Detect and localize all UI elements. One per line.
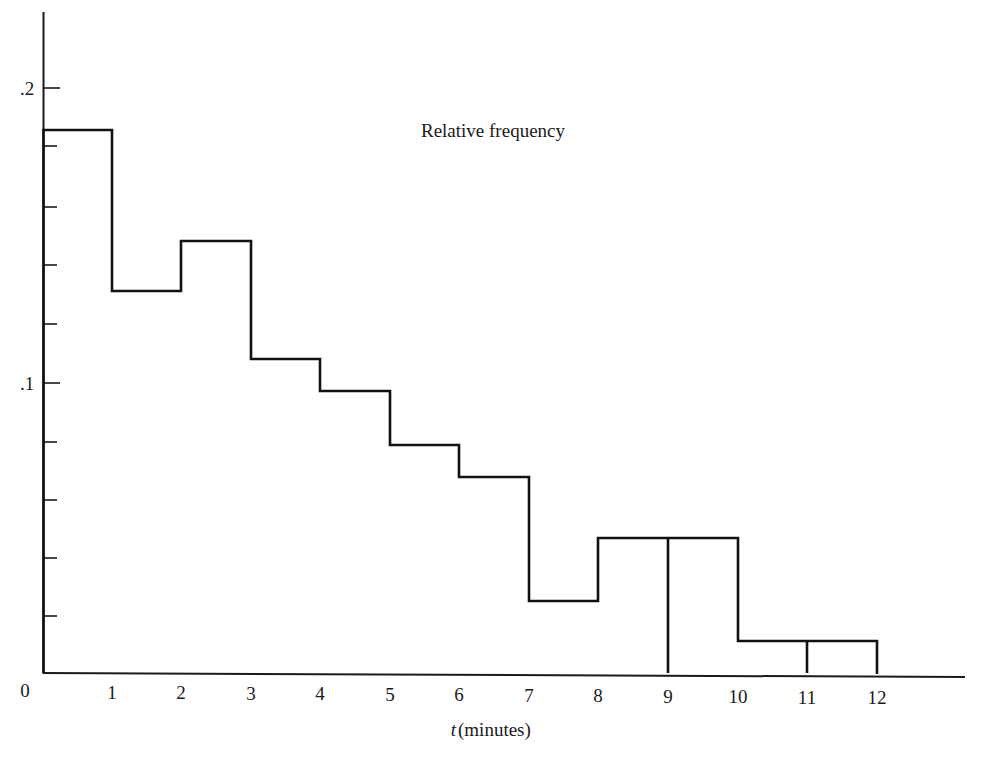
x-axis-tick-labels: 0 1 2 3 4 5 6 7 8 9 10 11 12 bbox=[20, 680, 886, 708]
x-axis-title-variable: t bbox=[451, 719, 457, 740]
x-tick-label-12: 12 bbox=[868, 687, 887, 708]
x-tick-label-6: 6 bbox=[454, 684, 464, 705]
svg-text:t: t bbox=[451, 719, 457, 740]
histogram-bars bbox=[44, 130, 878, 674]
x-axis-title-units: (minutes) bbox=[458, 719, 531, 741]
x-tick-label-8: 8 bbox=[593, 685, 603, 706]
x-tick-label-3: 3 bbox=[246, 683, 256, 704]
x-tick-label-9: 9 bbox=[663, 686, 673, 707]
histogram-figure: .2 .1 0 1 2 3 4 5 6 7 8 9 10 11 12 Relat… bbox=[0, 0, 987, 760]
y-tick-label-0.2: .2 bbox=[20, 78, 34, 99]
x-tick-label-11: 11 bbox=[798, 687, 816, 708]
x-tick-label-7: 7 bbox=[524, 685, 534, 706]
relative-frequency-histogram: .2 .1 0 1 2 3 4 5 6 7 8 9 10 11 12 Relat… bbox=[0, 0, 987, 760]
x-tick-label-4: 4 bbox=[315, 683, 325, 704]
bar-outline-profile bbox=[44, 130, 878, 674]
x-tick-label-10: 10 bbox=[729, 686, 748, 707]
x-tick-label-5: 5 bbox=[385, 684, 395, 705]
chart-title: Relative frequency bbox=[421, 120, 566, 141]
x-tick-label-1: 1 bbox=[107, 682, 117, 703]
y-axis-ticks bbox=[44, 88, 61, 616]
y-tick-label-0.1: .1 bbox=[20, 373, 34, 394]
x-tick-label-0: 0 bbox=[20, 680, 30, 701]
x-tick-label-2: 2 bbox=[176, 682, 186, 703]
x-axis-title: t (minutes) bbox=[451, 719, 531, 741]
x-axis-line bbox=[44, 673, 966, 677]
